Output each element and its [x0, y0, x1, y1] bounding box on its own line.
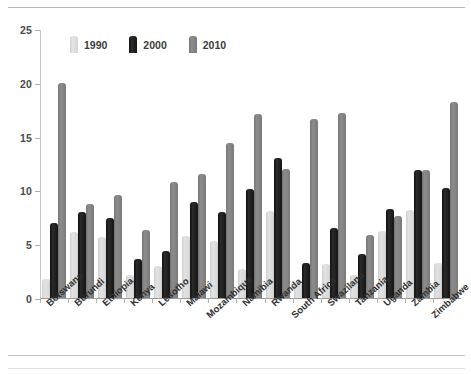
bar-group — [238, 114, 263, 298]
bar — [386, 209, 394, 298]
y-tick-label-0: 0 — [26, 293, 32, 305]
page-rule-top — [8, 7, 465, 8]
y-tick-label-5: 5 — [26, 239, 32, 251]
bar — [254, 114, 262, 298]
legend-swatch-icon-2010 — [189, 36, 197, 53]
bar-group — [406, 170, 431, 298]
bar — [58, 83, 66, 298]
bar-group — [210, 143, 235, 298]
legend-item-2000: 2000 — [129, 36, 166, 53]
bar — [414, 170, 422, 298]
y-tick-25 — [35, 30, 40, 31]
bar — [226, 143, 234, 298]
legend-item-1990: 1990 — [70, 36, 107, 53]
legend-label: 1990 — [84, 39, 107, 51]
bar-group — [42, 83, 67, 298]
legend-label: 2010 — [203, 39, 226, 51]
bar — [154, 266, 162, 298]
y-tick-20 — [35, 84, 40, 85]
y-tick-label-25: 25 — [20, 24, 32, 36]
bar-group — [434, 102, 459, 298]
legend-swatch-icon-1990 — [70, 36, 78, 53]
page-rule-bottom — [8, 355, 465, 356]
bar — [50, 223, 58, 298]
y-tick-label-15: 15 — [20, 132, 32, 144]
y-tick-label-10: 10 — [20, 185, 32, 197]
chart-legend: 199020002010 — [70, 36, 226, 53]
bar — [450, 102, 458, 298]
y-tick-label-20: 20 — [20, 78, 32, 90]
plot-area — [40, 30, 461, 299]
bar — [218, 212, 226, 298]
chart-figure: 0510152025 199020002010 BotswanaBurundiE… — [0, 0, 471, 374]
bar — [422, 170, 430, 298]
bar — [106, 218, 114, 298]
x-axis-category-labels: BotswanaBurundiEthiopiaKenyaLesothoMalaw… — [40, 300, 461, 355]
bar-group — [322, 113, 347, 298]
bar — [338, 113, 346, 298]
y-tick-5 — [35, 245, 40, 246]
y-tick-10 — [35, 191, 40, 192]
page-rule-bottom-secondary — [8, 368, 465, 369]
legend-label: 2000 — [143, 39, 166, 51]
y-axis-labels: 0510152025 — [0, 30, 32, 299]
legend-swatch-icon-2000 — [129, 36, 137, 53]
bar-group — [154, 182, 179, 298]
bar — [190, 202, 198, 298]
bar-group — [294, 119, 319, 298]
legend-item-2010: 2010 — [189, 36, 226, 53]
bar — [442, 188, 450, 298]
bar — [198, 174, 206, 298]
bar — [78, 212, 86, 298]
bar — [310, 119, 318, 298]
bar — [274, 158, 282, 298]
y-tick-15 — [35, 138, 40, 139]
bar — [282, 169, 290, 298]
